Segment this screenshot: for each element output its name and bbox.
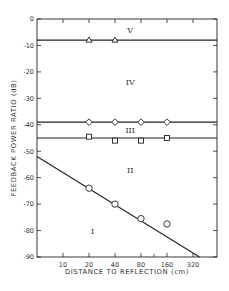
region-label-v: V (126, 26, 133, 35)
triangle-marker (112, 37, 118, 42)
square-marker (87, 134, 92, 139)
y-tick-label: -50 (23, 148, 34, 156)
y-tick-label: -60 (23, 174, 34, 182)
region-label-i: I (91, 227, 94, 236)
square-marker (113, 138, 118, 143)
x-axis-label: DISTANCE TO REFLECTION (cm) (65, 268, 189, 276)
diamond-marker (138, 119, 145, 126)
y-tick-label: -30 (23, 95, 34, 103)
y-tick-label: -90 (23, 253, 34, 261)
y-tick-label: -70 (23, 200, 34, 208)
y-tick-label: -10 (23, 42, 34, 50)
region-label-iii: III (125, 126, 134, 135)
circle-marker (86, 185, 92, 191)
diamond-marker (164, 119, 171, 126)
y-axis-label: FEEDBACK POWER RATIO (dB) (10, 79, 18, 196)
region-label-ii: II (127, 166, 133, 175)
square-marker (165, 136, 170, 141)
y-tick-label: -80 (23, 227, 34, 235)
triangle-marker (86, 37, 92, 42)
y-tick-label: -20 (23, 68, 34, 76)
region-label-iv: IV (126, 78, 135, 87)
x-axis: 10204080160320 (59, 19, 199, 269)
diamond-marker (112, 119, 119, 126)
boundary-lines (37, 40, 217, 257)
boundary-line-sloped (37, 157, 199, 257)
circle-marker (138, 215, 144, 221)
chart: 0-10-20-30-40-50-60-70-80-90 10204080160… (0, 0, 229, 291)
diamond-marker (86, 119, 93, 126)
circle-marker (112, 201, 118, 207)
y-tick-label: -40 (23, 121, 34, 129)
square-marker (139, 138, 144, 143)
circle-marker (164, 221, 170, 227)
y-tick-label: 0 (30, 15, 34, 23)
